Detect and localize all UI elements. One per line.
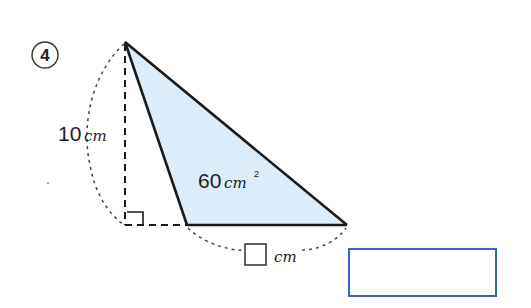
height-label: 10 cm — [58, 122, 107, 145]
base-arc — [188, 228, 346, 250]
svg-text:cm: cm — [84, 127, 107, 145]
answer-box[interactable] — [348, 248, 497, 297]
svg-text:cm: cm — [224, 174, 247, 192]
blank-square — [245, 244, 266, 265]
problem-number: 4 — [32, 42, 58, 68]
svg-text:cm: cm — [274, 248, 297, 266]
svg-text:2: 2 — [254, 169, 259, 179]
svg-text:60: 60 — [198, 169, 221, 192]
base-label: cm — [245, 244, 297, 266]
svg-text:10: 10 — [58, 122, 81, 145]
right-angle-mark — [127, 212, 143, 224]
svg-text:4: 4 — [40, 46, 50, 65]
